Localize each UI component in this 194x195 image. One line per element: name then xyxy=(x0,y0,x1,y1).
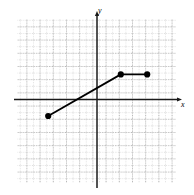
graph-figure: y x xyxy=(0,0,194,195)
data-point-marker xyxy=(45,113,51,119)
data-point-marker xyxy=(144,71,150,77)
coordinate-plane-svg xyxy=(0,0,194,195)
data-point-marker xyxy=(118,71,124,77)
x-axis-label: x xyxy=(181,101,185,109)
y-axis-label: y xyxy=(98,7,102,15)
